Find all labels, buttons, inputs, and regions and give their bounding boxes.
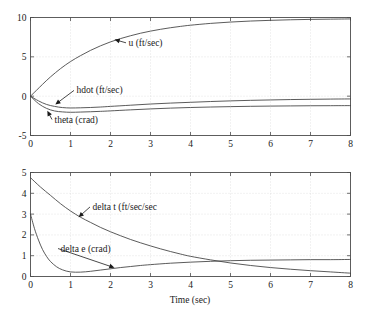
curve-annotation-label: delta t (ft/sec/sec	[93, 202, 157, 213]
lower-x-tick-label: 8	[348, 280, 353, 290]
lower-y-tick-label: 0	[22, 272, 27, 282]
upper-x-tick-label: 3	[148, 139, 153, 149]
lower-x-tick-label: 6	[268, 280, 273, 290]
upper-x-tick-label: 8	[348, 139, 353, 149]
lower-x-tick-label: 7	[308, 280, 313, 290]
upper-y-tick-label: 10	[17, 13, 27, 23]
lower-x-tick-label: 5	[228, 280, 233, 290]
lower-x-tick-label: 4	[188, 280, 193, 290]
curve-annotation-label: hdot (ft/sec)	[77, 85, 123, 96]
upper-x-tick-label: 4	[188, 139, 193, 149]
curve-annotation-label: theta (crad)	[55, 115, 99, 126]
lower-x-tick-label: 3	[148, 280, 153, 290]
lower-y-tick-label: 5	[22, 168, 27, 178]
upper-x-tick-label: 0	[28, 139, 33, 149]
lower-y-tick-label: 3	[22, 210, 27, 220]
upper-x-tick-label: 5	[228, 139, 233, 149]
upper-y-tick-label: 5	[22, 52, 27, 62]
upper-x-tick-label: 7	[308, 139, 313, 149]
figure-container: 012345678 -50510 u (ft/sec)hdot (ft/sec)…	[0, 0, 382, 313]
lower-y-tick-label: 4	[22, 189, 27, 199]
figure-background	[0, 0, 382, 313]
curve-annotation-label: delta e (crad)	[61, 244, 111, 255]
lower-y-tick-label: 1	[22, 251, 27, 261]
x-axis-title: Time (sec)	[170, 295, 211, 306]
upper-x-tick-label: 1	[68, 139, 73, 149]
matlab-figure: 012345678 -50510 u (ft/sec)hdot (ft/sec)…	[0, 0, 382, 313]
upper-x-tick-label: 6	[268, 139, 273, 149]
curve-annotation-label: u (ft/sec)	[129, 38, 163, 49]
lower-x-tick-label: 2	[108, 280, 113, 290]
upper-y-tick-label: -5	[19, 131, 27, 141]
lower-x-tick-label: 1	[68, 280, 73, 290]
upper-y-tick-label: 0	[22, 92, 27, 102]
lower-x-tick-label: 0	[28, 280, 33, 290]
lower-y-tick-label: 2	[22, 230, 27, 240]
upper-x-tick-label: 2	[108, 139, 113, 149]
